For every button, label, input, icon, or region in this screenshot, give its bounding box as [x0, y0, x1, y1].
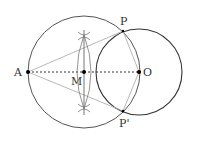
label-M: M: [71, 75, 82, 88]
label-P-prime: P': [119, 117, 129, 130]
point-A: [26, 70, 30, 74]
label-A: A: [13, 66, 23, 79]
point-M: [82, 70, 86, 74]
point-P-prime: [122, 110, 124, 112]
tangent-line-AP: [28, 31, 123, 72]
point-P: [122, 30, 124, 32]
geometry-diagram: A M O P P': [0, 0, 200, 141]
label-P: P: [120, 15, 128, 28]
point-O: [137, 70, 141, 74]
label-O: O: [143, 66, 152, 79]
